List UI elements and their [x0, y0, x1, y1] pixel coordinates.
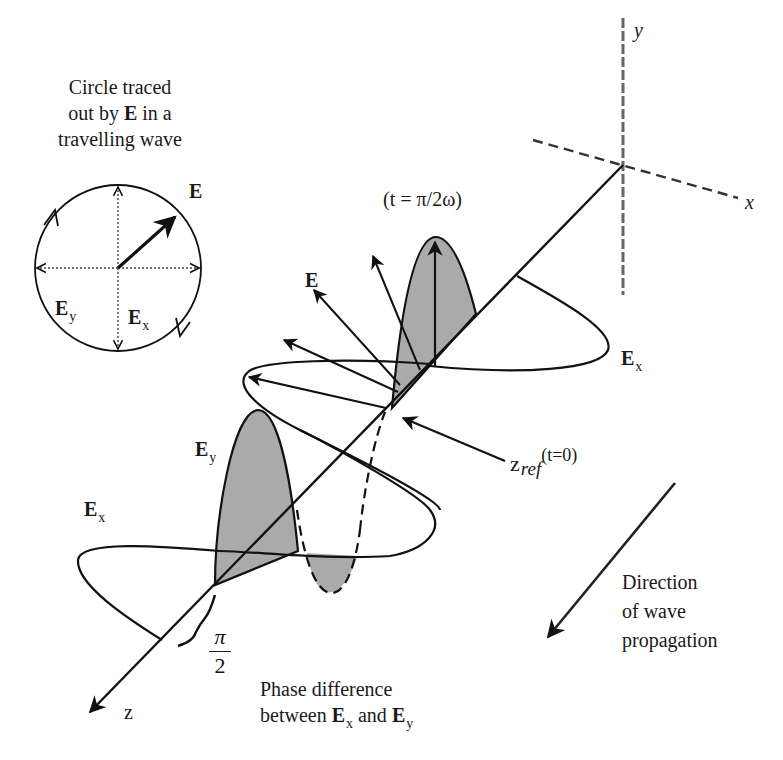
circle-ex-label: Ex [128, 305, 149, 332]
z-axis-label: z [124, 700, 133, 724]
zref-label: zref(t=0) [510, 452, 577, 477]
z-axis [90, 165, 623, 712]
ex-left-label: Ex [84, 497, 105, 524]
ex-right-label: Ex [621, 346, 642, 373]
phase-fraction: π 2 [205, 624, 235, 679]
propagation-caption: Direction of wave propagation [622, 568, 718, 655]
polarization-circle [35, 185, 201, 351]
ey-label: Ey [195, 437, 216, 464]
xy-axes [533, 18, 738, 295]
ey-lobes [215, 237, 476, 593]
x-axis-label: x [745, 190, 754, 214]
time-label: (t = π/2ω) [383, 187, 462, 211]
phase-caption: Phase difference between Ex and Ey [260, 676, 413, 731]
y-axis-label: y [634, 18, 643, 42]
circle-caption: Circle traced out by E in a travelling w… [20, 74, 220, 152]
circle-ey-label: Ey [55, 296, 76, 323]
circle-e-label: E [189, 179, 202, 203]
wave-e-label: E [305, 268, 318, 292]
e-field-arrows [249, 242, 505, 461]
e-vector-arrow [118, 217, 175, 268]
